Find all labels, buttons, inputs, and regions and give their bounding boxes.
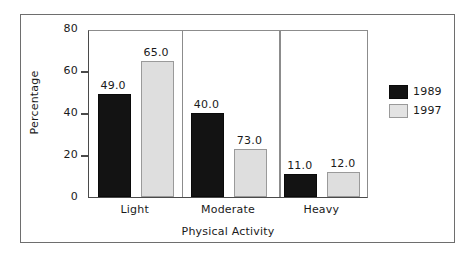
- chart-canvas: Percentage 020406080 49.065.040.073.011.…: [0, 0, 470, 258]
- x-category-label-light: Light: [88, 203, 181, 216]
- legend-label-1997: 1997: [413, 104, 442, 117]
- bar-moderate-1997[interactable]: [234, 149, 267, 197]
- bar-moderate-1989[interactable]: [191, 113, 224, 197]
- legend-item-1997[interactable]: 1997: [389, 101, 442, 120]
- x-axis-title: Physical Activity: [88, 225, 368, 238]
- x-category-label-heavy: Heavy: [275, 203, 368, 216]
- bar-value-label: 49.0: [91, 79, 136, 92]
- y-tick-label: 20: [38, 148, 78, 161]
- bar-value-label: 65.0: [134, 46, 179, 59]
- bar-value-label: 73.0: [227, 134, 272, 147]
- y-tick-label: 60: [38, 64, 78, 77]
- legend-label-1989: 1989: [413, 85, 442, 98]
- group-separator-2: [279, 31, 281, 197]
- x-category-label-moderate: Moderate: [181, 203, 274, 216]
- y-tick-mark: [81, 155, 88, 157]
- group-separator-1: [182, 31, 184, 197]
- y-tick-label: 80: [38, 22, 78, 35]
- legend-item-1989[interactable]: 1989: [389, 82, 442, 101]
- legend-swatch-1989: [389, 85, 408, 99]
- y-tick-mark: [81, 71, 88, 73]
- plot-area: [88, 30, 368, 198]
- y-tick-label: 40: [38, 106, 78, 119]
- bar-value-label: 11.0: [277, 159, 322, 172]
- bar-heavy-1997[interactable]: [327, 172, 360, 197]
- bar-heavy-1989[interactable]: [284, 174, 317, 197]
- bar-light-1989[interactable]: [98, 94, 131, 197]
- legend-swatch-1997: [389, 104, 408, 118]
- y-tick-mark: [81, 113, 88, 115]
- chart-legend: 19891997: [389, 82, 442, 120]
- bar-value-label: 40.0: [184, 98, 229, 111]
- bar-light-1997[interactable]: [141, 61, 174, 198]
- y-tick-label: 0: [38, 190, 78, 203]
- bar-value-label: 12.0: [320, 157, 365, 170]
